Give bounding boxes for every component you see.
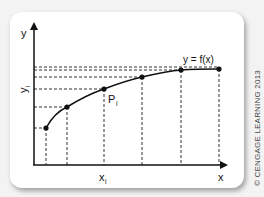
y-axis-label: y xyxy=(21,27,27,39)
data-points xyxy=(43,66,221,130)
svg-text:i: i xyxy=(24,85,31,87)
point-label: P i xyxy=(108,93,118,107)
curve-label: y = f(x) xyxy=(183,54,214,65)
function-graph: y x y = f(x) P i x i y i xyxy=(0,0,264,197)
svg-text:i: i xyxy=(116,100,118,107)
svg-text:i: i xyxy=(105,178,107,185)
function-curve xyxy=(46,69,219,128)
x-axis-label: x xyxy=(218,171,224,183)
copyright-notice: © CENGAGE LEARNING 2013 xyxy=(253,70,262,186)
x-tick-label: x i xyxy=(99,171,107,185)
svg-text:P: P xyxy=(108,93,115,105)
vertical-guide-lines xyxy=(46,69,219,165)
horizontal-guide-lines xyxy=(34,67,219,128)
y-tick-label: y i xyxy=(17,85,31,93)
